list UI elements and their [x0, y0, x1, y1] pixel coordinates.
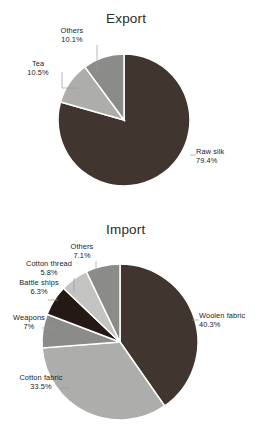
slice-label-value: 33.5%	[5, 382, 77, 391]
slice-label-name: Raw silk	[196, 147, 260, 156]
slice-label-name: Others	[60, 242, 104, 251]
import-pie-chart: Import Others 7.1% Cotton thread 5.8% Ba…	[0, 216, 265, 435]
slice-label-value: 5.8%	[13, 268, 85, 277]
slice-label-name: Cotton thread	[13, 259, 85, 268]
slice-label-value: 10.5%	[12, 68, 64, 77]
slice-label-value: 40.3%	[199, 320, 265, 329]
export-slice-label-tea: Tea 10.5%	[12, 59, 64, 77]
export-slice-label-others: Others 10.1%	[44, 26, 100, 44]
slice-label-value: 6.3%	[8, 287, 70, 296]
export-pie-chart: Export Others 10.1% Tea 10.5% Raw silk 7…	[0, 0, 265, 218]
slice-label-name: Cotton fabric	[5, 373, 77, 382]
import-slice-label-cotton-thread: Cotton thread 5.8%	[13, 259, 85, 277]
slice-label-name: Others	[44, 26, 100, 35]
export-pie-graphic	[0, 0, 265, 218]
import-slice-label-woolen-fabric: Woolen fabric 40.3%	[199, 311, 265, 329]
slice-label-name: Weapons	[2, 313, 56, 322]
export-slice-label-raw-silk: Raw silk 79.4%	[196, 147, 260, 165]
slice-label-value: 79.4%	[196, 156, 260, 165]
slice-label-name: Woolen fabric	[199, 311, 265, 320]
import-slice-label-cotton-fabric: Cotton fabric 33.5%	[5, 373, 77, 391]
slice-label-name: Tea	[12, 59, 64, 68]
import-slice-label-weapons: Weapons 7%	[2, 313, 56, 331]
slice-label-value: 7%	[2, 322, 56, 331]
import-slice-label-battle-ships: Battle ships 6.3%	[8, 278, 70, 296]
import-slice-label-others: Others 7.1%	[60, 242, 104, 260]
slice-label-value: 10.1%	[44, 35, 100, 44]
slice-label-name: Battle ships	[8, 278, 70, 287]
